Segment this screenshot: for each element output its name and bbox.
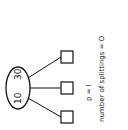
child-node-3 [61,111,73,123]
root-value-2: 30 [13,68,23,80]
child-node-2 [61,82,73,94]
edge-1 [28,57,61,78]
child-node-1 [61,51,73,63]
edge-3 [28,98,61,117]
tree-diagram: 10 30 p = l number of splittings = O [0,0,128,130]
p-label: p = l [85,84,93,101]
splittings-label: number of splittings = O [98,35,106,122]
root-value-1: 10 [13,92,23,104]
